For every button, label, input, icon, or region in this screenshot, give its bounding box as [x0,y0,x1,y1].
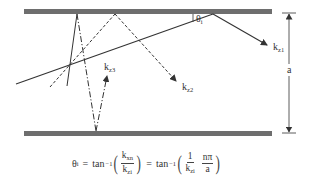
formula-frac2-den: kzi [184,163,195,176]
formula-frac1-num: kxn [121,150,134,164]
ray-kz2-reflected [115,14,176,81]
ray-kz3-segment-1 [67,14,77,86]
kz2-label: kz2 [182,82,193,94]
formula-arctan-1: tan−1 [92,158,112,169]
formula-tan-1-sup: −1 [105,160,112,167]
formula-arctan-2: tan−1 [156,158,176,169]
kz3-subscript: z3 [109,66,115,73]
ray-kz3-segment-2 [77,14,96,131]
ray-kz3-segment-3 [96,76,107,131]
formula-equals-2: = [146,158,152,169]
ray-kz1-incident [16,14,213,84]
formula-fraction-kxn-kzi: kxn kzi [121,150,134,177]
kz2-subscript: z2 [187,86,193,93]
formula-tan-1: tan [92,158,104,169]
theta-subscript: i [201,18,203,25]
formula-paren-close-2: ) [216,152,220,174]
formula-paren-open-1: ( [114,152,118,174]
formula-paren-open-2: ( [178,152,182,174]
kz1-label: kz1 [273,42,284,54]
formula-frac1-den: kzi [122,164,133,177]
kz3-label: kz3 [104,62,115,74]
formula-fraction-npi-a: nπ a [202,152,214,175]
bottom-plate [24,131,272,136]
formula-frac2-num: 1 [187,151,194,163]
a-symbol: a [287,64,291,75]
dimension-a-label: a [286,65,292,75]
formula-lhs: θi [72,158,79,169]
incidence-angle-formula: θi = tan−1 ( kxn kzi ) = tan−1 ( 1 kzi n… [72,148,222,178]
top-plate [24,9,272,14]
formula-fraction-1-kzi: 1 kzi [184,151,195,176]
formula-tan-2: tan [156,158,168,169]
ray-kz1-reflected [213,14,267,45]
theta-label: θi [196,14,203,26]
formula-paren-close-1: ) [136,152,140,174]
formula-frac3-num: nπ [202,152,214,164]
formula-equals-1: = [83,158,89,169]
formula-frac3-den: a [205,164,211,175]
formula-tan-2-sup: −1 [169,160,176,167]
kz1-subscript: z1 [278,46,284,53]
formula-theta-sub: i [77,160,79,167]
